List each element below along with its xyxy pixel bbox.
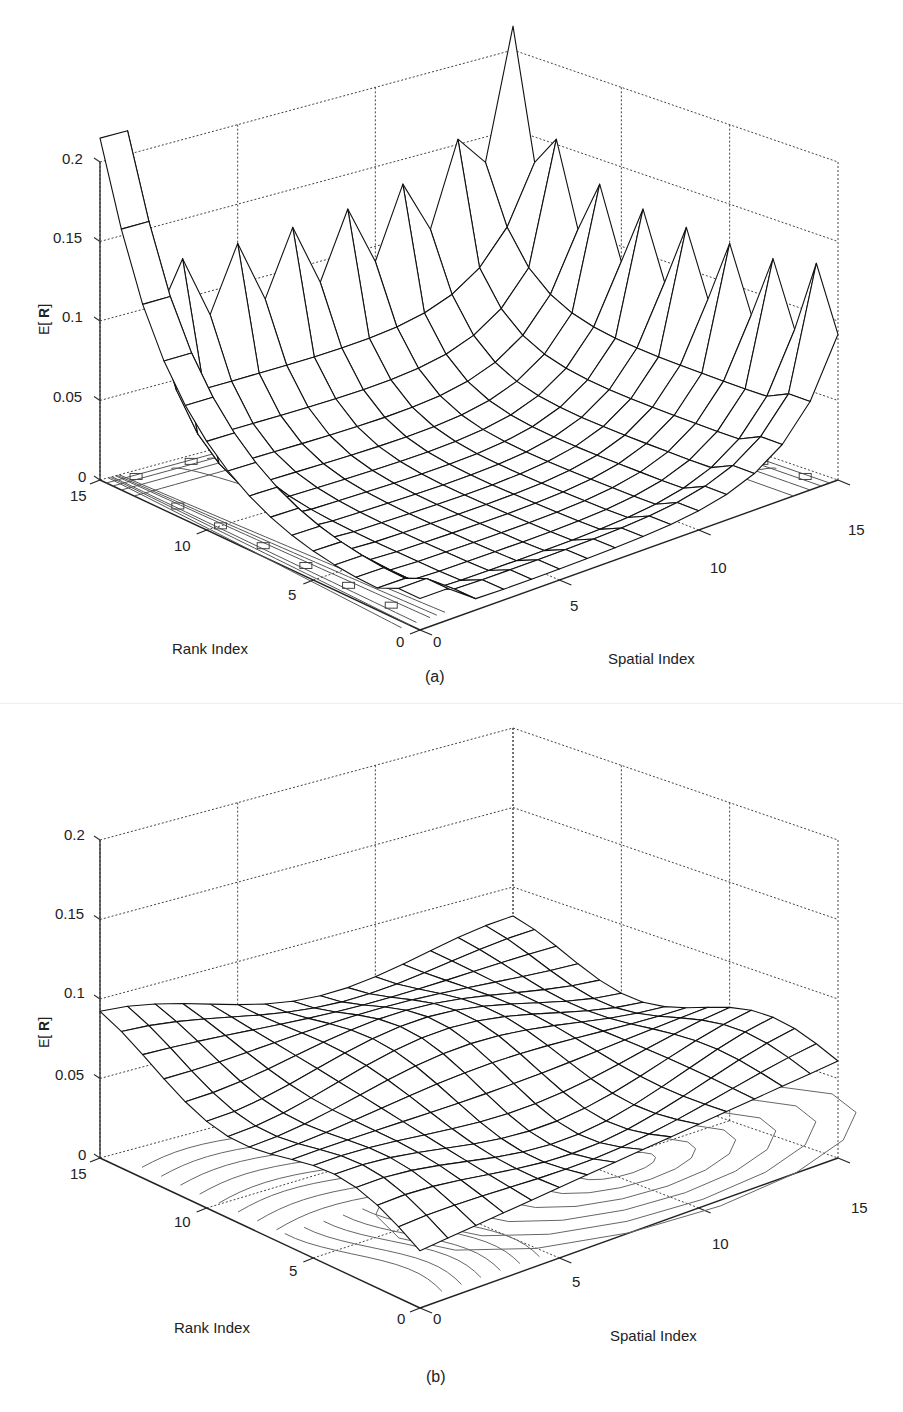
panel-caption: (b) [426,1368,446,1386]
spatial-tick: 5 [570,598,578,613]
rank-tick: 5 [289,1263,297,1278]
rank-axis-label: Rank Index [172,641,248,656]
rank-tick: 0 [397,1311,405,1326]
rank-tick: 10 [174,1214,191,1229]
z-axis-label: E[ R] [36,304,52,335]
spatial-tick: 5 [572,1274,580,1289]
spatial-tick: 15 [848,522,865,537]
rank-tick: 10 [174,538,191,553]
z-tick: 0.1 [64,985,85,1000]
rank-tick: 15 [70,488,87,503]
z-tick: 0.1 [62,309,83,324]
rank-tick: 15 [70,1166,87,1181]
figure-panel-a: E[ R] 0.2 0.15 0.1 0.05 0 15 10 5 0 0 5 … [0,0,903,706]
z-tick: 0 [78,469,86,484]
panel-divider [0,703,903,704]
z-axis-label: E[ R] [36,1017,52,1048]
rank-tick: 5 [288,587,296,602]
spatial-tick: 10 [712,1236,729,1251]
z-tick: 0.2 [64,827,85,842]
spatial-tick: 15 [851,1200,868,1215]
surface-plot-b [0,706,903,1412]
spatial-tick: 0 [433,634,441,649]
surface-plot-a [0,0,903,706]
figure-panel-b: E[ R] 0.2 0.15 0.1 0.05 0 15 10 5 0 0 5 … [0,706,903,1412]
rank-axis-label: Rank Index [174,1320,250,1335]
spatial-axis-label: Spatial Index [608,651,695,666]
spatial-tick: 0 [433,1311,441,1326]
z-tick: 0.15 [55,906,84,921]
rank-tick: 0 [396,634,404,649]
z-tick: 0.05 [53,389,82,404]
z-tick: 0.05 [55,1067,84,1082]
spatial-tick: 10 [710,560,727,575]
panel-caption: (a) [425,668,445,686]
z-tick: 0 [78,1147,86,1162]
spatial-axis-label: Spatial Index [610,1328,697,1343]
z-tick: 0.2 [62,151,83,166]
z-tick: 0.15 [53,230,82,245]
